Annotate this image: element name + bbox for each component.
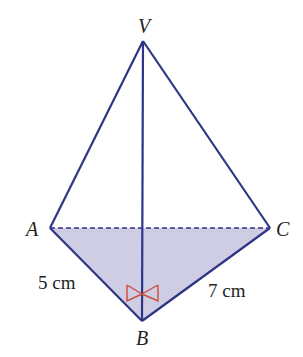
vertex-label-a: A	[24, 218, 39, 240]
vertex-label-b: B	[136, 327, 148, 349]
edge-vc	[143, 41, 270, 228]
edge-vb	[142, 41, 143, 321]
edge-va	[50, 41, 143, 228]
vertex-label-v: V	[138, 15, 153, 37]
vertex-label-c: C	[276, 218, 290, 240]
measure-bc: 7 cm	[208, 280, 246, 301]
pyramid-diagram: V A C B 5 cm 7 cm	[0, 0, 303, 357]
measure-ab: 5 cm	[38, 272, 76, 293]
